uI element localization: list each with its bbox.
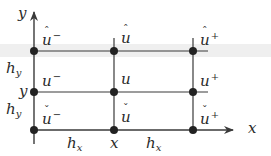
label-mid-right: u+ xyxy=(200,72,219,89)
y-axis-label: y xyxy=(18,6,26,21)
label-bot-left: ˇu− xyxy=(42,110,61,127)
label-top-left: ˆu− xyxy=(42,31,61,48)
label-mid-mid: u xyxy=(121,72,131,87)
stencil-diagram: y x ˆu− ˆu ˆu+ u− u u+ ˇu− ˇu ˇu+ hy y h… xyxy=(0,0,271,156)
spacing-hx-right: hx xyxy=(146,136,161,153)
node-bot-right xyxy=(189,126,197,134)
label-top-mid: ˆu xyxy=(121,31,131,46)
node-top-right xyxy=(189,47,197,55)
node-mid-left xyxy=(30,88,38,96)
spacing-hy-upper: hy xyxy=(6,61,21,78)
x-coordinate-label: x xyxy=(110,136,118,151)
node-top-mid xyxy=(110,47,118,55)
y-coordinate-label: y xyxy=(19,84,27,99)
node-bot-mid xyxy=(110,126,118,134)
node-top-left xyxy=(30,47,38,55)
node-mid-mid xyxy=(110,88,118,96)
label-bot-right: ˇu+ xyxy=(200,110,219,127)
label-bot-mid: ˇu xyxy=(121,110,131,125)
node-mid-right xyxy=(189,88,197,96)
node-bot-left xyxy=(30,126,38,134)
label-top-right: ˆu+ xyxy=(200,31,219,48)
label-mid-left: u− xyxy=(42,72,61,89)
spacing-hy-lower: hy xyxy=(6,102,21,119)
x-axis-label: x xyxy=(248,121,256,136)
spacing-hx-left: hx xyxy=(67,136,82,153)
grid-graphic xyxy=(0,0,271,156)
